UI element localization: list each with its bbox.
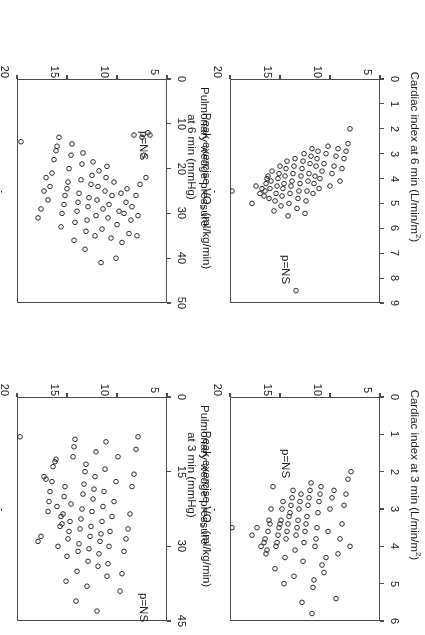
data-point: [336, 146, 341, 151]
data-point: [50, 171, 55, 176]
panel-pcwp-6min: p=NS 5101520 01020304050 Peak exercise V…: [0, 0, 212, 317]
data-point: [108, 529, 113, 534]
yaxis-tick-label: 1: [389, 101, 400, 107]
data-point: [280, 194, 285, 199]
data-point: [287, 201, 292, 206]
data-point: [349, 469, 354, 474]
data-point: [317, 499, 322, 504]
data-point: [346, 477, 351, 482]
data-point: [55, 144, 60, 149]
data-point: [120, 571, 125, 576]
data-point: [104, 175, 109, 180]
data-point: [309, 154, 314, 159]
xaxis-tick-label: 15: [262, 384, 273, 396]
yaxis-tick-label: 2: [389, 126, 400, 132]
data-point: [127, 231, 132, 236]
data-point: [122, 211, 127, 216]
data-point: [290, 179, 295, 184]
data-point: [125, 186, 130, 191]
data-point: [136, 435, 141, 440]
data-point: [114, 479, 119, 484]
data-point: [313, 544, 318, 549]
data-point: [98, 539, 103, 544]
yaxis-tick: [380, 302, 384, 303]
yaxis-title-cardiac-index-6min: Cardiac index at 6 min (L/min/m2): [409, 67, 425, 247]
data-point: [260, 186, 265, 191]
data-point: [294, 288, 299, 293]
yaxis-tick: [167, 302, 171, 303]
data-point: [130, 204, 135, 209]
data-point: [281, 499, 286, 504]
xaxis-tick: [116, 75, 117, 79]
data-point: [122, 549, 127, 554]
data-point: [134, 193, 139, 198]
data-point: [289, 503, 294, 508]
xaxis-tick: [329, 393, 330, 397]
data-point: [77, 542, 82, 547]
yaxis-tick-label: 0: [389, 76, 400, 82]
data-point: [89, 524, 94, 529]
data-point: [318, 492, 323, 497]
data-point: [306, 503, 311, 508]
yaxis-title-pcwp-6min: Pulmonary wedge pressure at 6 min (mmHg): [185, 67, 211, 247]
data-point: [102, 489, 107, 494]
data-point: [312, 181, 317, 186]
yaxis-tick: [380, 508, 384, 509]
data-point: [36, 539, 41, 544]
data-point: [65, 186, 70, 191]
panel-cardiac-index-6min: p=NS 5101520 0123456789 Peak exercise VO…: [213, 0, 425, 317]
data-point: [136, 213, 141, 218]
data-point: [306, 179, 311, 184]
xaxis-tick: [16, 393, 17, 397]
data-point: [138, 182, 143, 187]
xaxis-tick-label: 10: [99, 384, 110, 396]
data-point: [112, 180, 117, 185]
data-point: [328, 184, 333, 189]
data-point: [316, 149, 321, 154]
data-point: [310, 611, 315, 616]
data-point: [334, 154, 339, 159]
xaxis-tick: [229, 75, 230, 79]
data-point: [101, 207, 106, 212]
data-point: [312, 578, 317, 583]
data-point: [310, 146, 315, 151]
data-point: [230, 189, 234, 194]
data-point: [283, 555, 288, 560]
data-point: [104, 440, 109, 445]
data-point: [274, 191, 279, 196]
data-point: [348, 126, 353, 131]
data-point: [19, 139, 24, 144]
data-point: [110, 193, 115, 198]
data-point: [297, 507, 302, 512]
data-point: [112, 499, 117, 504]
yaxis-tick-label: 4: [389, 176, 400, 182]
xaxis-tick-label: 15: [49, 384, 60, 396]
data-point: [103, 189, 108, 194]
data-point: [129, 218, 134, 223]
data-point: [116, 454, 121, 459]
yaxis-tick-label: 6: [389, 618, 400, 624]
pvalue-label-cardiac-index-6min: p=NS: [280, 255, 292, 284]
data-point: [96, 564, 101, 569]
xaxis-tick-label: 20: [0, 384, 10, 396]
data-point: [48, 184, 53, 189]
data-point: [64, 579, 69, 584]
data-point: [344, 492, 349, 497]
data-point: [317, 186, 322, 191]
data-point: [342, 503, 347, 508]
data-point: [75, 569, 80, 574]
yaxis-tick-label: 5: [389, 200, 400, 206]
data-point: [97, 169, 102, 174]
data-point: [91, 160, 96, 165]
data-point: [90, 509, 95, 514]
data-point: [286, 214, 291, 219]
figure-sheet: p=NS 5101520 0123456 Peak exercise VO2 (…: [0, 0, 425, 635]
yaxis-tick: [167, 546, 171, 547]
data-point: [39, 207, 44, 212]
data-point: [107, 544, 112, 549]
data-point: [93, 234, 98, 239]
data-point: [91, 497, 96, 502]
data-point: [332, 488, 337, 493]
data-point: [300, 166, 305, 171]
data-point: [63, 484, 68, 489]
